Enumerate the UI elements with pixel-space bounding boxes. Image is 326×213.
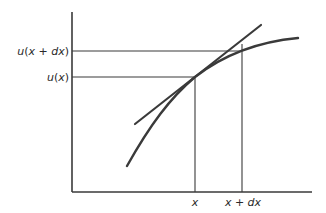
function-curve <box>127 38 298 166</box>
label-u-x-dx: u(x + dx) <box>17 45 69 58</box>
label-x: x <box>191 196 199 209</box>
label-u-x: u(x) <box>47 71 69 84</box>
label-x-dx: x + dx <box>224 196 262 209</box>
tangent-diagram: u(x + dx) u(x) x x + dx <box>0 0 326 213</box>
